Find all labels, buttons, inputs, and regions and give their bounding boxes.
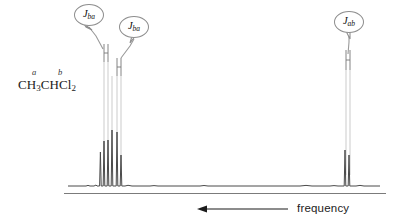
nmr-spectrum-figure: a b CH3CHCl2 [0,0,399,221]
peak-extension-lines [104,62,350,175]
spectrum-canvas [0,0,399,221]
formula-proton-labels: a b [8,68,86,77]
leader-line-jba-left [89,27,103,49]
molecule-formula: a b CH3CHCl2 [8,68,86,92]
formula-text: CH3CHCl2 [8,78,86,93]
spectrum-trace [68,130,380,186]
callout-jab[interactable]: Jab [334,11,364,33]
callout-jab-label: Jab [343,16,355,27]
callout-jba-right[interactable]: Jba [119,16,149,38]
frequency-axis-label: frequency [297,202,349,214]
frequency-axis-row: frequency [196,200,376,216]
coupling-measure-bars [104,44,350,76]
callout-jba-right-label: Jba [128,21,140,32]
frequency-arrow-slot [196,202,288,214]
leader-line-jba-right [121,39,134,58]
leader-line-jab [348,34,349,54]
callout-jba-left-label: Jba [83,9,95,20]
proton-label-b: b [47,68,73,77]
formula-subscript-2: 2 [72,82,77,92]
formula-segment-ch: CH [18,77,36,92]
spectrum-trace-path [68,130,380,186]
callout-jba-left[interactable]: Jba [74,4,104,26]
formula-segment-chcl: CHCl [41,77,72,92]
proton-label-a: a [21,68,47,77]
